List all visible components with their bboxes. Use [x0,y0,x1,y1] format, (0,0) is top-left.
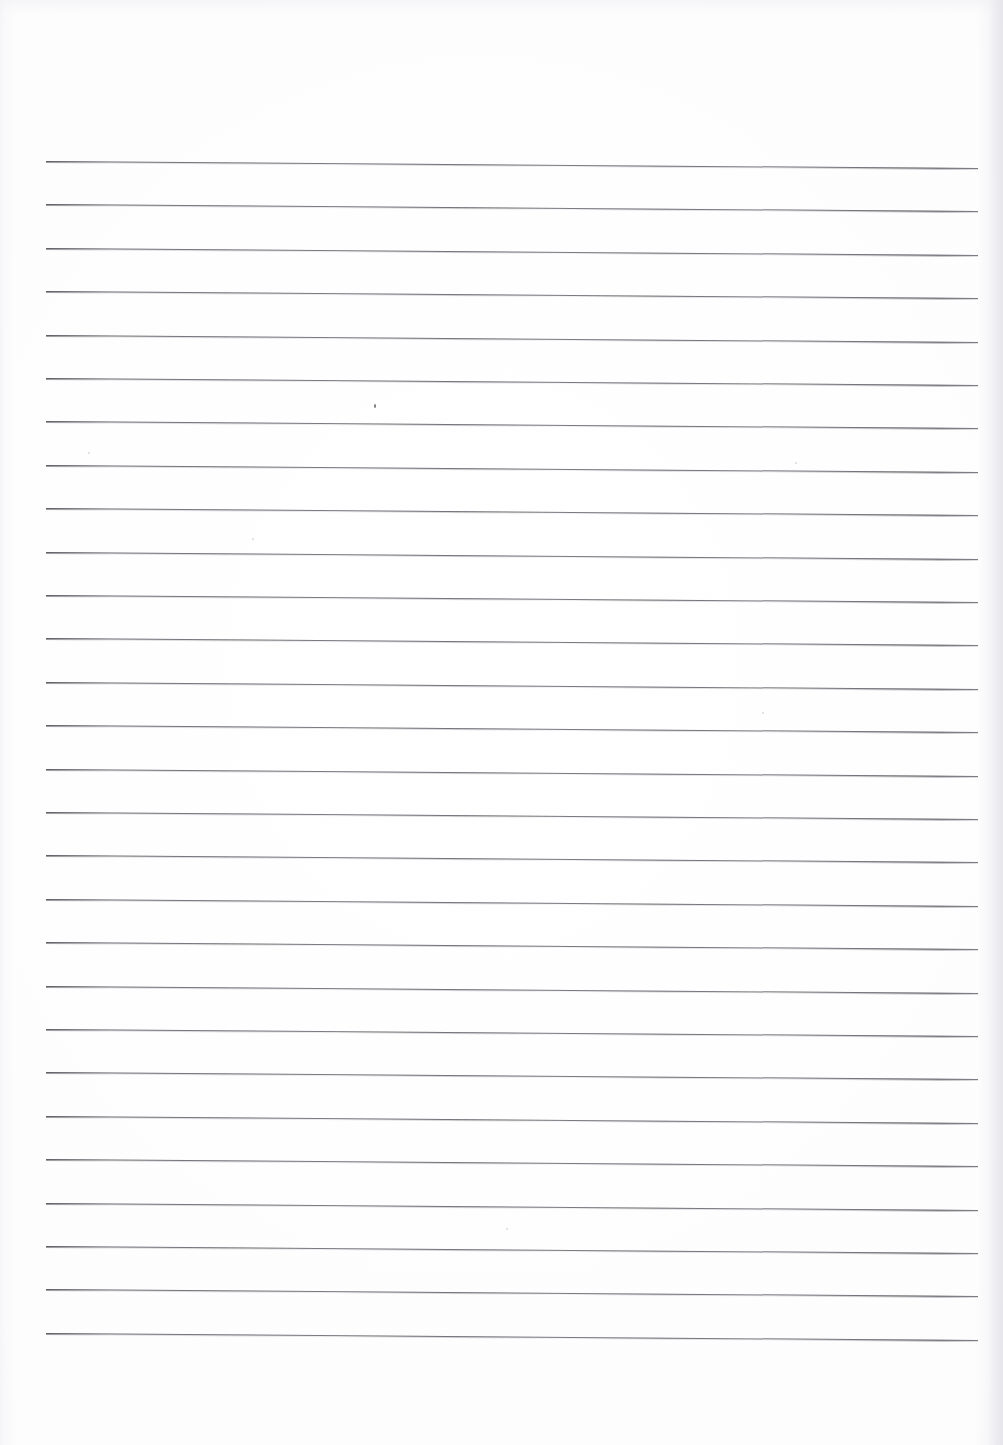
rule-line [46,812,978,820]
rule-line [46,1203,978,1211]
rule-line [46,1333,978,1341]
rule-line [46,725,978,733]
rule-line [46,378,978,386]
page-edge-left-shadow [0,0,16,1445]
rule-line [46,769,978,777]
rule-line [46,1159,978,1167]
scan-speck [374,404,376,408]
rule-line [46,465,978,473]
rule-line [46,291,978,299]
rule-line [46,1116,978,1124]
rule-line [46,1072,978,1080]
scan-speck [506,1228,508,1230]
rule-line [46,204,978,212]
rule-line [46,248,978,256]
scan-speck [88,452,90,454]
rule-line [46,986,978,994]
scan-speck [762,712,764,714]
rule-line [46,161,978,169]
rule-line [46,855,978,863]
rule-line [46,682,978,690]
rule-line [46,421,978,429]
rule-line [46,1029,978,1037]
rule-line [46,638,978,646]
scanned-page [0,0,1003,1445]
rule-line [46,1289,978,1297]
rule-line [46,899,978,907]
paper-surface [0,0,1003,1445]
rule-line [46,552,978,560]
scan-speck [795,462,797,464]
scan-speck [252,538,254,540]
ruled-lines-layer [0,0,1003,1445]
rule-line [46,595,978,603]
rule-line [46,942,978,950]
rule-line [46,1246,978,1254]
rule-line [46,508,978,516]
page-edge-top-shadow [0,0,1003,22]
page-edge-right-shadow [977,0,1003,1445]
rule-line [46,335,978,343]
